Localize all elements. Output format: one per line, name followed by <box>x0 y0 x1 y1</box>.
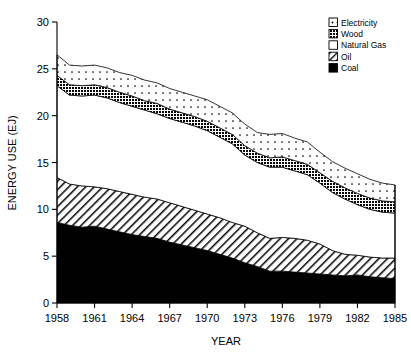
x-tick-label: 1982 <box>345 312 369 324</box>
legend-swatch-white <box>329 41 338 50</box>
x-tick-label: 1961 <box>82 312 106 324</box>
y-tick-label: 15 <box>37 157 49 169</box>
x-axis-title: YEAR <box>211 335 241 347</box>
stacked-area-chart: 051015202530 195819611964196719701973197… <box>0 0 411 354</box>
legend-swatch-diagonal-hatch <box>329 52 338 61</box>
legend-item-natural-gas: Natural Gas <box>329 40 386 50</box>
x-tick-label: 1979 <box>308 312 332 324</box>
x-tick-label: 1985 <box>383 312 407 324</box>
legend-swatch-solid-black <box>329 64 338 73</box>
chart-figure: 051015202530 195819611964196719701973197… <box>0 0 411 354</box>
legend-item-electricity: Electricity <box>329 18 378 28</box>
legend-item-wood: Wood <box>329 29 363 39</box>
y-tick-label: 20 <box>37 110 49 122</box>
x-tick-label: 1973 <box>233 312 257 324</box>
x-tick-label: 1976 <box>270 312 294 324</box>
y-tick-label: 5 <box>43 250 49 262</box>
x-tick-label: 1970 <box>195 312 219 324</box>
y-tick-label: 0 <box>43 297 49 309</box>
area-layers <box>57 55 395 303</box>
legend-label: Wood <box>341 29 363 39</box>
x-tick-label: 1967 <box>157 312 181 324</box>
legend-label: Natural Gas <box>341 40 386 50</box>
legend-label: Electricity <box>341 18 378 28</box>
legend-item-oil: Oil <box>329 52 352 62</box>
y-tick-label: 10 <box>37 203 49 215</box>
x-tick-label: 1958 <box>45 312 69 324</box>
legend-swatch-dark-crosshatch <box>329 29 338 38</box>
legend-item-coal: Coal <box>329 63 359 73</box>
x-tick-label: 1964 <box>120 312 144 324</box>
y-tick-labels: 051015202530 <box>37 16 49 309</box>
legend-label: Coal <box>341 63 359 73</box>
legend-label: Oil <box>341 52 352 62</box>
y-tick-label: 30 <box>37 16 49 28</box>
x-tick-labels: 1958196119641967197019731976197919821985 <box>45 312 407 324</box>
y-tick-label: 25 <box>37 63 49 75</box>
legend-swatch-dotted <box>329 18 338 27</box>
y-axis-title: ENERGY USE (EJ) <box>6 115 18 210</box>
chart-legend: ElectricityWoodNatural GasOilCoal <box>329 18 386 74</box>
